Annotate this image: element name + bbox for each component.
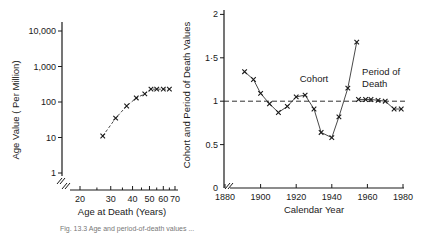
- figure-caption: Fig. 13.3 Age and period-of-death values…: [60, 225, 194, 232]
- annotation-label: Cohort: [300, 73, 329, 84]
- data-point-marker: [337, 115, 342, 120]
- x-tick-label: 50: [144, 194, 154, 204]
- y-tick-label: 1·5: [205, 53, 218, 63]
- right-chart: 00.511·52188019001920194019601980Calenda…: [181, 9, 413, 215]
- x-axis-title: Age at Death (Years): [78, 206, 166, 217]
- data-point-marker: [258, 91, 263, 96]
- y-tick-label: 1: [51, 168, 56, 178]
- data-point-marker: [113, 116, 118, 121]
- y-tick-label: 2: [213, 9, 218, 19]
- annotation-label: Death: [362, 78, 387, 89]
- data-point-marker: [100, 134, 105, 139]
- y-tick-label: 0.5: [205, 140, 218, 150]
- x-tick-label: 1960: [357, 192, 377, 202]
- cohort-line: [245, 42, 357, 137]
- y-tick-label: 10: [46, 133, 56, 143]
- data-point-marker: [267, 102, 272, 107]
- x-tick-label: 1940: [322, 192, 342, 202]
- data-point-marker: [312, 107, 317, 112]
- x-tick-label: 60: [158, 194, 168, 204]
- x-tick-label: 20: [75, 194, 85, 204]
- data-point-marker: [276, 110, 281, 115]
- age-value-line: [103, 89, 170, 136]
- x-tick-label: 70: [170, 194, 180, 204]
- data-point-marker: [242, 69, 247, 74]
- y-tick-label: 100: [41, 97, 56, 107]
- data-point-marker: [142, 92, 147, 97]
- y-tick-label: 1,000: [33, 62, 56, 72]
- annotation-label: Period of: [362, 66, 400, 77]
- data-point-marker: [149, 87, 154, 92]
- x-tick-label: 1980: [393, 192, 413, 202]
- y-tick-label: 10,000: [28, 26, 56, 36]
- data-point-marker: [251, 77, 256, 82]
- x-axis-title: Calendar Year: [284, 204, 344, 215]
- x-tick-label: 40: [128, 194, 138, 204]
- data-point-marker: [319, 130, 324, 135]
- x-tick-label: 30: [106, 194, 116, 204]
- data-point-marker: [285, 104, 290, 109]
- left-chart: 1101001,00010,000203040506070Age at Deat…: [10, 22, 180, 217]
- y-axis-title: Cohort and Period of Death Values: [181, 21, 192, 168]
- x-tick-label: 1900: [251, 192, 271, 202]
- axis-break-icon: [62, 183, 70, 189]
- y-tick-label: 1: [213, 96, 218, 106]
- figure: 1101001,00010,000203040506070Age at Deat…: [0, 0, 424, 235]
- y-axis-title: Age Value ( Per Million): [10, 60, 21, 159]
- data-point-marker: [330, 135, 335, 140]
- data-point-marker: [134, 96, 139, 101]
- x-tick-label: 1880: [215, 192, 235, 202]
- data-point-marker: [124, 104, 129, 109]
- x-tick-label: 1920: [286, 192, 306, 202]
- axis-break-icon: [57, 178, 65, 184]
- data-point-marker: [167, 87, 172, 92]
